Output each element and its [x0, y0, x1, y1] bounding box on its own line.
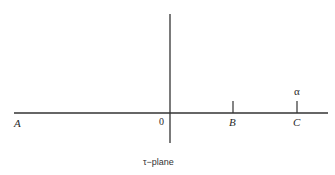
axes-svg — [0, 0, 335, 175]
tau-plane-diagram: A 0 B C α τ−plane — [0, 0, 335, 175]
point-label-A: A — [14, 118, 21, 129]
point-label-C: C — [293, 117, 300, 128]
point-label-B: B — [229, 117, 236, 128]
plane-caption: τ−plane — [143, 157, 174, 167]
origin-label: 0 — [159, 117, 164, 127]
alpha-label: α — [294, 86, 300, 97]
